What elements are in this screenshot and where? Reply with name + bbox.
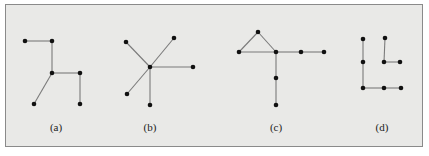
vertex <box>299 50 304 55</box>
graph-d-label: (d) <box>376 121 389 134</box>
vertex <box>23 39 28 44</box>
vertex <box>32 102 37 107</box>
edge <box>34 73 52 104</box>
vertex <box>274 103 279 108</box>
edge <box>150 38 174 67</box>
graph-c-label: (c) <box>270 121 283 134</box>
graph-d <box>361 36 404 91</box>
vertex <box>78 102 83 107</box>
vertex <box>172 36 177 41</box>
vertex <box>383 36 388 41</box>
vertex <box>361 37 366 42</box>
vertex <box>322 50 327 55</box>
edge <box>126 42 150 67</box>
vertex <box>382 86 387 91</box>
vertex <box>78 71 83 76</box>
vertex <box>361 86 366 91</box>
vertex <box>274 50 279 55</box>
graph-a-label: (a) <box>50 121 63 134</box>
graph-b <box>124 36 196 108</box>
vertex <box>361 60 366 65</box>
vertex <box>148 103 153 108</box>
vertex <box>191 65 196 70</box>
vertex <box>50 71 55 76</box>
vertex <box>256 30 261 35</box>
graph-diagram-canvas: (a) (b) (c) (d) <box>0 0 429 156</box>
graph-c <box>237 30 327 108</box>
vertex <box>382 60 387 65</box>
edge <box>258 32 276 52</box>
vertex <box>398 60 403 65</box>
graph-b-label: (b) <box>144 121 157 134</box>
vertex <box>50 39 55 44</box>
graph-a <box>23 39 83 107</box>
edge <box>239 32 258 52</box>
vertex <box>124 40 129 45</box>
vertex <box>125 92 130 97</box>
edge <box>127 67 150 94</box>
vertex <box>399 86 404 91</box>
vertex <box>237 50 242 55</box>
edge <box>384 38 385 62</box>
vertex <box>148 65 153 70</box>
vertex <box>274 76 279 81</box>
